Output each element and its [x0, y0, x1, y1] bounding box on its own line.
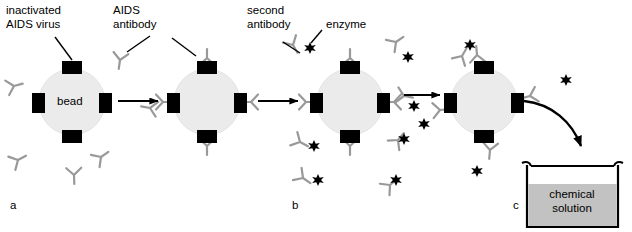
leader-line-aids-antibody-2 [172, 38, 196, 56]
elisa-diagram-figure: inactivated AIDS virus AIDS antibody sec… [0, 0, 632, 232]
panel-b-bead2-group [156, 38, 298, 155]
virus-block [197, 61, 217, 74]
free-antibody [111, 52, 128, 70]
leader-line-inactivated-virus [55, 37, 72, 60]
virus-block [310, 93, 323, 113]
label-aids-antibody: AIDS antibody [113, 4, 156, 31]
label-second-antibody: second antibody [247, 4, 290, 31]
virus-block [62, 61, 82, 74]
label-inactivated-aids-virus: inactivated AIDS virus [6, 4, 61, 31]
virus-block [474, 130, 494, 143]
virus-block [340, 130, 360, 143]
virus-block [167, 93, 180, 113]
virus-block [197, 130, 217, 143]
label-chemical-solution: chemical solution [532, 188, 612, 215]
enzyme-antibody [290, 132, 320, 153]
virus-block [474, 61, 494, 74]
virus-block [340, 61, 360, 74]
virus-block [99, 93, 112, 113]
panel-a-group [5, 36, 158, 184]
bead-2 [174, 69, 240, 135]
virus-block [444, 93, 457, 113]
bead-3 [317, 69, 383, 135]
virus-block [377, 93, 390, 113]
leader-line-aids-antibody [127, 36, 150, 52]
virus-block [234, 93, 247, 113]
virus-block [511, 93, 524, 113]
free-antibody [8, 149, 29, 170]
enzyme-antibody [386, 31, 414, 63]
enzyme-antibody [388, 128, 410, 150]
free-antibody [5, 76, 24, 95]
arrow-to-beaker [524, 101, 581, 146]
leader-line-enzyme [311, 30, 322, 43]
virus-block [32, 93, 45, 113]
free-antibody [66, 168, 82, 185]
label-enzyme: enzyme [326, 18, 366, 32]
label-bead: bead [57, 95, 83, 109]
panel-letter-b: b [292, 199, 298, 211]
panel-letter-a: a [10, 199, 16, 211]
enzyme-antibody [380, 173, 402, 195]
free-antibody [91, 146, 113, 167]
bound-enzyme-antibody [471, 142, 498, 177]
virus-block [62, 130, 82, 143]
enzyme-antibody [293, 168, 324, 189]
bead-4 [451, 69, 517, 135]
panel-letter-c: c [513, 199, 519, 211]
